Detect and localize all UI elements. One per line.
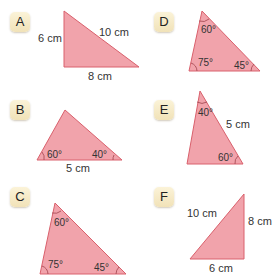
- triangle-e-top-angle: 40°: [198, 107, 213, 118]
- triangle-a: 6 cm 10 cm 8 cm: [38, 11, 139, 82]
- triangle-a-left-label: 6 cm: [38, 32, 62, 44]
- triangle-e: 40° 5 cm 60°: [187, 91, 250, 164]
- triangle-d-top-angle: 60°: [201, 24, 216, 35]
- triangle-c-left-angle: 75°: [48, 259, 63, 270]
- triangle-d-right-angle: 45°: [234, 60, 249, 71]
- triangle-b-right-angle: 40°: [92, 149, 107, 160]
- triangle-c: 60° 75° 45°: [40, 203, 126, 274]
- triangle-e-bottom-angle: 60°: [218, 152, 233, 163]
- triangle-f-right-label: 8 cm: [248, 215, 272, 227]
- triangle-c-right-angle: 45°: [94, 262, 109, 273]
- triangle-c-top-angle: 60°: [54, 217, 69, 228]
- triangle-e-side-label: 5 cm: [226, 118, 250, 130]
- triangle-a-hyp-label: 10 cm: [99, 26, 129, 38]
- triangle-d: 60° 75° 45°: [189, 11, 260, 71]
- triangle-b: 60° 40° 5 cm: [37, 110, 122, 174]
- triangles-diagram: 6 cm 10 cm 8 cm 60° 40° 5 cm 60° 75° 45°…: [0, 0, 274, 276]
- triangle-f: 10 cm 8 cm 6 cm: [187, 194, 272, 274]
- triangle-a-bottom-label: 8 cm: [88, 70, 112, 82]
- triangle-f-hyp-label: 10 cm: [187, 207, 217, 219]
- triangle-d-left-angle: 75°: [198, 57, 213, 68]
- triangle-b-left-angle: 60°: [47, 149, 62, 160]
- triangle-f-bottom-label: 6 cm: [209, 262, 233, 274]
- triangle-b-bottom-label: 5 cm: [66, 162, 90, 174]
